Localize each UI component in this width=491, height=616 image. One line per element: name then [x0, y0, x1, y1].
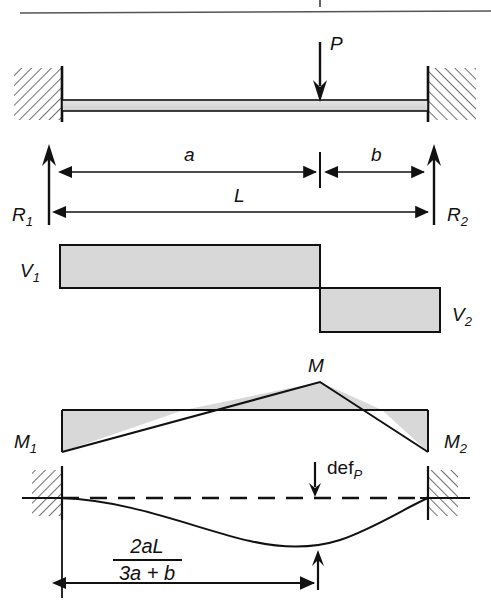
fixed-support-hatch-icon [428, 68, 476, 120]
moment-right-label: M2 [444, 431, 468, 456]
beam-diagram-figure: P R1 R2 a [0, 0, 491, 616]
dimension-b: b [324, 144, 424, 178]
moment-diagram: M M1 M2 [14, 355, 468, 456]
reaction-right-label: R2 [447, 204, 469, 229]
wall-left [14, 66, 62, 122]
shear-block-v1 [60, 245, 320, 288]
dimension-L-label: L [234, 185, 245, 206]
fixed-support-hatch-icon [32, 470, 62, 516]
fixed-support-hatch-icon [14, 68, 62, 120]
dimension-b-label: b [371, 144, 382, 165]
reaction-left-label: R1 [12, 204, 33, 229]
wall-right [428, 66, 476, 122]
moment-peak-label: M [308, 355, 324, 376]
reaction-right-group: R2 [427, 144, 469, 229]
shear-diagram: V1 V2 [20, 245, 473, 332]
reaction-left-group: R1 [12, 144, 56, 229]
moment-area-m-peak [184, 382, 382, 410]
shear-left-label: V1 [20, 260, 40, 285]
load-arrow-group: P [313, 33, 343, 102]
header-rule [20, 11, 491, 13]
dimension-group: R1 R2 a b [12, 144, 469, 229]
deflection-position-dimension: 2aL 3a + b [52, 520, 324, 598]
deflection-curve [62, 498, 428, 547]
dimension-L: L [52, 185, 428, 218]
dimension-a-label: a [184, 144, 195, 165]
moment-area-m2 [382, 410, 428, 452]
deflection-position-formula: 2aL 3a + b [113, 535, 182, 584]
shear-right-label: V2 [452, 304, 473, 329]
fixed-support-hatch-icon [428, 470, 458, 516]
load-label: P [330, 33, 343, 54]
shear-block-v2 [320, 288, 440, 332]
moment-area-m1 [62, 410, 184, 452]
formula-numerator: 2aL [129, 535, 163, 557]
deflection-arrow-group: defP [309, 457, 362, 497]
dimension-a: a [58, 144, 316, 178]
beam-member [62, 100, 428, 111]
deflection-label: defP [327, 457, 362, 482]
loading-diagram: P [14, 33, 476, 122]
moment-left-label: M1 [14, 431, 37, 456]
deflection-diagram: defP 2aL 3a + b [22, 457, 470, 598]
formula-denominator: 3a + b [119, 562, 175, 584]
